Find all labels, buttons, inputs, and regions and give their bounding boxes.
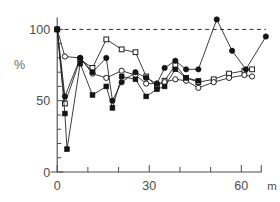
- data-point-open-circle: [62, 54, 67, 59]
- x-tick-label: 0: [54, 179, 61, 193]
- data-point-filled-square: [196, 78, 201, 83]
- data-point-open-circle: [226, 75, 231, 80]
- data-point-filled-circle: [162, 65, 167, 70]
- data-point-open-square: [104, 37, 109, 42]
- data-point-open-square: [133, 50, 138, 55]
- data-point-filled-square: [155, 87, 160, 92]
- data-series-group: [55, 17, 269, 152]
- data-point-filled-square: [162, 84, 167, 89]
- data-point-filled-square: [62, 111, 67, 116]
- series-1: [55, 27, 255, 106]
- data-point-filled-square: [184, 75, 189, 80]
- chart-figure: 05010003060%m: [0, 0, 280, 202]
- data-point-filled-square: [133, 77, 138, 82]
- x-tick-label: 30: [142, 179, 156, 193]
- data-point-open-square: [250, 67, 255, 72]
- data-point-filled-circle: [214, 17, 219, 22]
- series-polyline: [57, 29, 198, 149]
- x-axis-unit-label: m: [267, 180, 277, 192]
- y-tick-label: 100: [29, 23, 50, 37]
- data-point-filled-circle: [229, 48, 234, 53]
- data-point-open-circle: [119, 68, 124, 73]
- data-point-filled-square: [90, 93, 95, 98]
- chart-axes: [51, 18, 261, 172]
- data-point-filled-circle: [143, 75, 148, 80]
- data-point-filled-circle: [243, 67, 248, 72]
- data-point-filled-circle: [263, 34, 268, 39]
- data-point-filled-circle: [154, 81, 159, 86]
- data-point-open-square: [62, 101, 67, 106]
- data-point-filled-square: [119, 74, 124, 79]
- data-point-filled-square: [110, 105, 115, 110]
- y-tick-label: 0: [43, 166, 50, 180]
- data-point-open-circle: [242, 72, 247, 77]
- data-point-open-circle: [144, 81, 149, 86]
- y-tick-label: 50: [36, 94, 50, 108]
- data-point-filled-circle: [196, 67, 201, 72]
- data-point-open-circle: [196, 85, 201, 90]
- data-point-open-circle: [249, 74, 254, 79]
- data-point-filled-circle: [104, 55, 109, 60]
- data-point-filled-square: [78, 61, 83, 66]
- data-point-open-circle: [211, 80, 216, 85]
- series-4: [55, 27, 201, 152]
- data-point-open-square: [119, 47, 124, 52]
- data-point-filled-circle: [173, 58, 178, 63]
- data-point-filled-square: [173, 67, 178, 72]
- line-chart: 05010003060%m: [0, 0, 280, 202]
- y-axis-label: %: [14, 58, 25, 72]
- data-point-filled-square: [104, 84, 109, 89]
- data-point-filled-circle: [90, 69, 95, 74]
- series-polyline: [57, 19, 266, 100]
- data-point-open-circle: [173, 77, 178, 82]
- data-point-open-circle: [104, 75, 109, 80]
- data-point-filled-square: [55, 27, 60, 32]
- axis-labels-group: 05010003060%m: [14, 23, 277, 193]
- data-point-filled-square: [144, 94, 149, 99]
- data-point-filled-circle: [78, 55, 83, 60]
- data-point-filled-circle: [133, 69, 138, 74]
- x-tick-label: 60: [234, 179, 248, 193]
- data-point-filled-square: [65, 147, 70, 152]
- data-point-filled-circle: [183, 67, 188, 72]
